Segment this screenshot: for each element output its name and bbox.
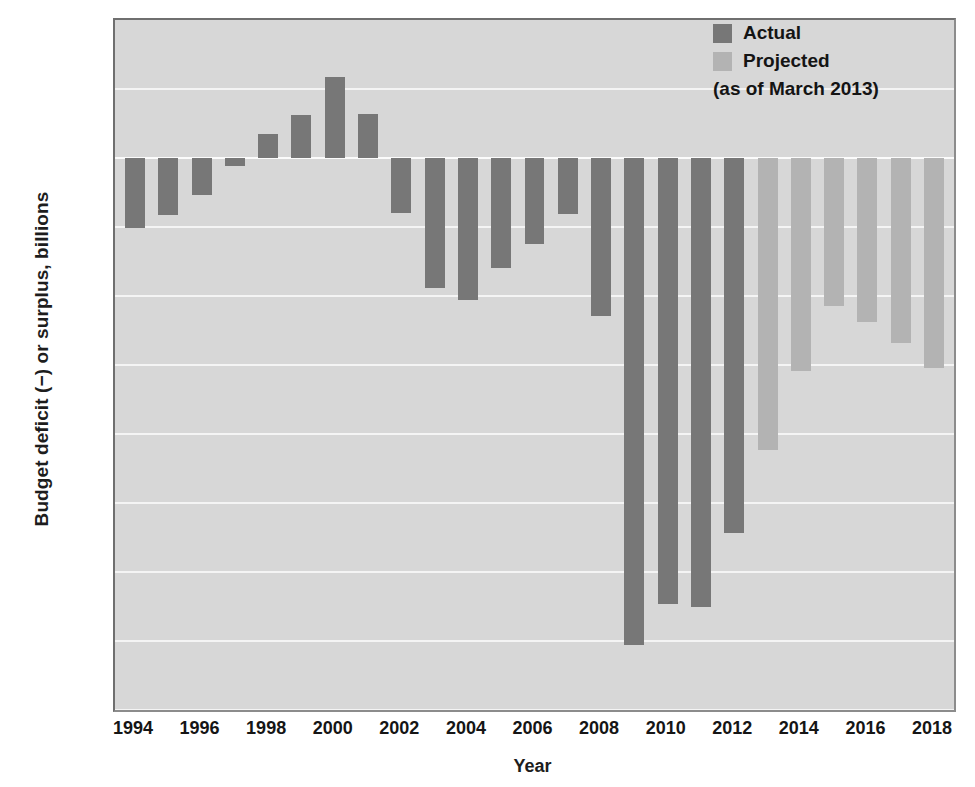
x-tick-label: 2002 [364, 718, 434, 739]
bar-1996 [192, 158, 212, 195]
legend-swatch-projected-icon [713, 52, 732, 71]
bar-2011 [691, 158, 711, 607]
bar-2002 [391, 158, 411, 213]
legend-swatch-actual-icon [713, 24, 732, 43]
bar-2004 [458, 158, 478, 300]
x-tick-label: 2016 [830, 718, 900, 739]
y-axis-title: Budget deficit (−) or surplus, billions [31, 79, 53, 639]
bar-2001 [358, 114, 378, 158]
x-tick-label: 1994 [98, 718, 168, 739]
gridline [115, 640, 954, 642]
legend: Actual Projected (as of March 2013) [713, 22, 943, 100]
bar-1995 [158, 158, 178, 215]
bar-2005 [491, 158, 511, 268]
bar-2015 [824, 158, 844, 306]
plot-area [113, 18, 956, 712]
x-tick-label: 2018 [897, 718, 967, 739]
bar-2009 [624, 158, 644, 645]
x-tick-label: 2008 [564, 718, 634, 739]
bar-2014 [791, 158, 811, 371]
bar-2017 [891, 158, 911, 343]
x-tick-label: 2014 [764, 718, 834, 739]
bar-1994 [125, 158, 145, 228]
bar-2007 [558, 158, 578, 214]
bar-2012 [724, 158, 744, 533]
gridline [115, 709, 954, 711]
x-tick-label: 1996 [165, 718, 235, 739]
bar-2010 [658, 158, 678, 604]
legend-label-actual: Actual [743, 22, 801, 44]
gridline [115, 571, 954, 573]
legend-entry-actual: Actual [713, 22, 943, 44]
bar-2003 [425, 158, 445, 288]
bar-2018 [924, 158, 944, 368]
gridline [115, 364, 954, 366]
bar-1997 [225, 158, 245, 166]
legend-entry-projected: Projected [713, 50, 943, 72]
bar-2006 [525, 158, 545, 244]
x-tick-label: 2012 [697, 718, 767, 739]
bar-2000 [325, 77, 345, 158]
x-tick-label: 2010 [631, 718, 701, 739]
budget-deficit-chart: Budget deficit (−) or surplus, billions … [0, 0, 975, 787]
legend-label-projected: Projected [743, 50, 830, 72]
bar-2008 [591, 158, 611, 316]
bar-1999 [291, 115, 311, 158]
bar-1998 [258, 134, 278, 158]
gridline [115, 433, 954, 435]
bar-2016 [857, 158, 877, 322]
x-tick-label: 2000 [298, 718, 368, 739]
legend-note: (as of March 2013) [713, 78, 943, 100]
x-tick-label: 1998 [231, 718, 301, 739]
gridline [115, 502, 954, 504]
x-tick-label: 2006 [498, 718, 568, 739]
x-tick-label: 2004 [431, 718, 501, 739]
bar-2013 [758, 158, 778, 450]
x-axis-title: Year [105, 756, 960, 777]
